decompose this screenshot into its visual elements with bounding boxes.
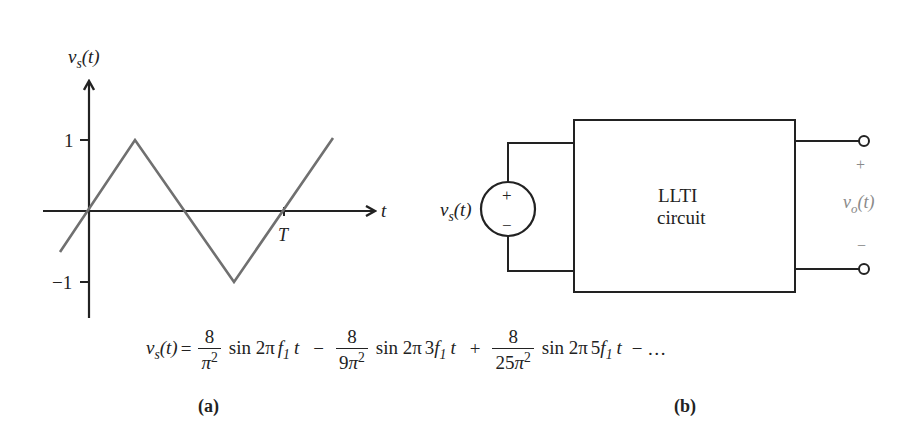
term-2-denominator: 9π2	[336, 348, 368, 372]
term-2-t: t	[450, 337, 455, 358]
term-3-t: t	[616, 337, 621, 358]
term-3-harm: 5	[591, 337, 601, 358]
output-plus-sign: +	[856, 157, 865, 173]
term-2-den-pow: 2	[358, 350, 365, 365]
x-axis-label: t	[381, 201, 386, 220]
source-label-arg: (t)	[454, 199, 472, 220]
output-terminal-plus-icon	[859, 136, 869, 146]
term-2-harm: 3	[425, 337, 435, 358]
term-2-coefficient: 8 9π2	[336, 327, 368, 372]
block-subtitle: circuit	[657, 208, 706, 227]
term-2-den-coef: 9	[339, 352, 349, 373]
x-tick-label-T: T	[278, 226, 288, 244]
output-label-arg: (t)	[857, 192, 874, 212]
term-2-sign: −	[313, 338, 324, 360]
source-minus-sign: −	[502, 217, 512, 234]
source-bottom-wire	[508, 236, 574, 271]
term-3-function: sin 2π5f1t	[542, 337, 622, 363]
lti-circuit-block	[574, 120, 795, 292]
term-3-sign: +	[470, 338, 481, 360]
term-1-t: t	[294, 337, 299, 358]
source-label: vs(t)	[440, 200, 472, 223]
term-2-numerator: 8	[344, 327, 360, 348]
eq-lhs-arg: (t)	[160, 337, 178, 358]
waveform-plot	[43, 82, 374, 318]
term-3-fn: sin 2π	[542, 337, 588, 358]
term-1-fn: sin 2π	[229, 337, 275, 358]
term-3-den-pow: 2	[524, 350, 531, 365]
block-title: LLTI	[658, 186, 697, 205]
output-label-var: v	[843, 192, 851, 212]
caption-a: (a)	[198, 396, 219, 417]
term-2-fn: sin 2π	[376, 337, 422, 358]
source-top-wire	[508, 143, 574, 182]
circuit-diagram	[481, 120, 869, 292]
term-1-numerator: 8	[202, 327, 218, 348]
eq-tail: − …	[632, 338, 666, 360]
term-3-den-pi: π	[514, 352, 524, 373]
y-axis-label-arg: (t)	[82, 46, 100, 67]
term-3-coefficient: 8 25π2	[492, 327, 533, 372]
caption-b: (b)	[674, 396, 696, 417]
term-2-function: sin 2π3f1t	[376, 337, 456, 363]
term-1-coefficient: 8 π2	[198, 327, 220, 372]
output-terminal-minus-icon	[859, 264, 869, 274]
term-3-den-coef: 25	[495, 352, 514, 373]
y-axis-label: vs(t)	[68, 47, 100, 70]
term-3-numerator: 8	[505, 327, 521, 348]
term-2-den-pi: π	[348, 352, 358, 373]
term-1-function: sin 2πf1t	[229, 337, 299, 363]
term-1-den-pow: 2	[211, 350, 218, 365]
source-plus-sign: +	[502, 187, 512, 204]
term-1-denominator: π2	[198, 348, 220, 372]
eq-lhs: vs(t)	[146, 337, 178, 363]
term-3-f-sub: 1	[606, 346, 613, 361]
output-label: vo(t)	[843, 193, 874, 215]
term-3-denominator: 25π2	[492, 348, 533, 372]
output-minus-sign: −	[857, 238, 866, 254]
y-tick-label-1: 1	[64, 131, 74, 150]
term-1-f-sub: 1	[283, 346, 290, 361]
term-2-f-sub: 1	[440, 346, 447, 361]
y-tick-label-neg1: −1	[52, 273, 72, 292]
eq-equals: =	[181, 338, 192, 360]
term-1-den-pi: π	[201, 352, 211, 373]
fourier-series-equation: vs(t) = 8 π2 sin 2πf1t − 8 9π2 sin 2π3f1…	[146, 327, 666, 372]
